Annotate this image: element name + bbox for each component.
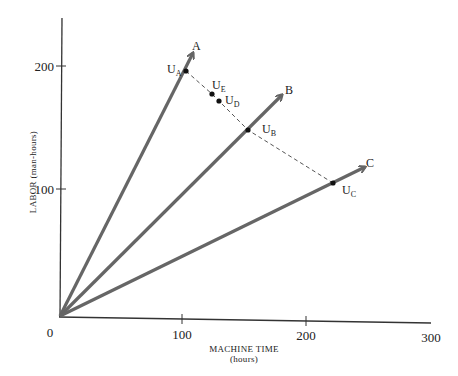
point-label-ud: UD bbox=[225, 93, 240, 109]
point-ud bbox=[216, 98, 221, 103]
y-axis-title: LABOR (man-hours) bbox=[28, 131, 38, 213]
isoquant-line bbox=[186, 71, 333, 183]
point-ua bbox=[183, 68, 188, 73]
x-axis-units: (hours) bbox=[230, 354, 258, 364]
x-tick-label-200: 200 bbox=[296, 328, 316, 343]
y-axis bbox=[60, 18, 62, 317]
y-tick-label-200: 200 bbox=[35, 59, 55, 74]
point-ub bbox=[245, 127, 250, 132]
point-label-ue: UE bbox=[212, 78, 226, 94]
x-axis-title: MACHINE TIME bbox=[209, 344, 279, 354]
x-axis bbox=[59, 317, 431, 323]
ray-label-c: C bbox=[366, 156, 374, 170]
point-ue bbox=[209, 91, 214, 96]
point-uc bbox=[330, 180, 335, 185]
ray-c bbox=[60, 167, 365, 316]
ray-label-b: B bbox=[285, 83, 293, 97]
point-label-ub: UB bbox=[262, 122, 276, 138]
point-label-uc: UC bbox=[342, 183, 356, 199]
ray-a bbox=[60, 53, 193, 316]
point-label-ua: UA bbox=[167, 62, 182, 78]
x-tick-label-100: 100 bbox=[172, 327, 192, 342]
isoquant-chart: 200 100 0 100 200 300 MACHINE TIME (hour… bbox=[0, 0, 458, 376]
origin-label: 0 bbox=[47, 325, 54, 340]
ray-label-a: A bbox=[192, 39, 201, 53]
x-tick-label-300: 300 bbox=[421, 330, 441, 345]
